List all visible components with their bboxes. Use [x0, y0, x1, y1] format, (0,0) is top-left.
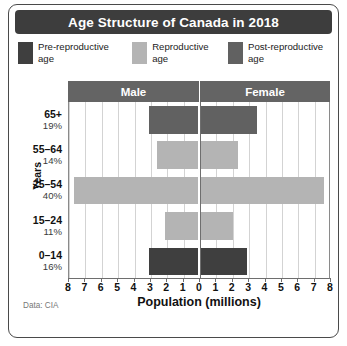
- bar-female: [200, 106, 257, 134]
- chart-title-bar: Age Structure of Canada in 2018: [15, 10, 332, 34]
- bar-male: [74, 177, 198, 205]
- x-axis-tick-label: 7: [311, 281, 317, 293]
- legend-item-0: Pre-reproductive age: [18, 41, 126, 64]
- legend-swatch-reproductive: [132, 42, 147, 64]
- bar-female: [200, 212, 233, 240]
- bar-rows: [69, 102, 329, 278]
- age-group-percent: 11%: [44, 226, 63, 238]
- bar-male: [149, 106, 198, 134]
- page-title: Age Structure of Canada in 2018: [68, 15, 279, 30]
- sex-header-female: Female: [199, 81, 330, 102]
- x-axis-tick-label: 6: [98, 281, 104, 293]
- sex-header: Male Female: [68, 81, 330, 102]
- age-group-percent: 14%: [43, 155, 62, 167]
- x-axis-tick-label: 7: [81, 281, 87, 293]
- bar-row: [69, 137, 329, 172]
- age-group-name: 55–64: [33, 143, 62, 155]
- legend-label-2: Post-reproductive age: [248, 41, 338, 64]
- chart-card: Age Structure of Canada in 2018 Pre-repr…: [8, 4, 339, 338]
- age-group-percent: 40%: [43, 190, 62, 202]
- x-axis-tick-label: 8: [65, 281, 71, 293]
- plot-area: [68, 102, 330, 279]
- bar-male: [157, 141, 198, 169]
- age-group-name: 65+: [44, 108, 62, 120]
- chart-legend: Pre-reproductive ageReproductive agePost…: [18, 41, 338, 75]
- bar-female: [200, 248, 247, 276]
- x-axis-title: Population (millions): [68, 295, 330, 309]
- x-axis-tick-label: 3: [147, 281, 153, 293]
- x-axis-tick-label: 0: [196, 281, 202, 293]
- legend-item-1: Reproductive age: [132, 41, 222, 64]
- bar-row: [69, 102, 329, 137]
- y-axis-group-label: 15–2411%: [33, 208, 62, 243]
- x-axis-tick-label: 3: [245, 281, 251, 293]
- y-axis-title: Years: [31, 162, 43, 190]
- age-group-name: 15–24: [33, 214, 62, 226]
- age-group-name: 0–14: [39, 249, 62, 261]
- x-axis-tick-label: 5: [114, 281, 120, 293]
- y-axis-labels: 65+19%55–6414%25–5440%15–2411%0–1416%: [9, 102, 66, 279]
- bar-row: [69, 244, 329, 279]
- x-axis-tick-label: 4: [131, 281, 137, 293]
- x-axis-tick-label: 2: [229, 281, 235, 293]
- bar-male: [149, 248, 198, 276]
- x-axis-tick-label: 5: [278, 281, 284, 293]
- bar-female: [200, 177, 324, 205]
- age-group-percent: 19%: [43, 120, 62, 132]
- bar-female: [200, 141, 238, 169]
- sex-header-male: Male: [68, 81, 199, 102]
- legend-label-1: Reproductive age: [152, 41, 222, 64]
- legend-item-2: Post-reproductive age: [228, 41, 338, 64]
- age-group-percent: 16%: [43, 261, 62, 273]
- x-axis-tick-label: 6: [294, 281, 300, 293]
- bar-row: [69, 208, 329, 243]
- legend-swatch-post-reproductive: [228, 42, 243, 64]
- x-axis-tick-label: 4: [262, 281, 268, 293]
- bar-male: [165, 212, 198, 240]
- legend-label-0: Pre-reproductive age: [38, 41, 126, 64]
- x-axis-tick-label: 2: [163, 281, 169, 293]
- plot-frame: Male Female: [68, 81, 330, 279]
- x-axis-tick-label: 1: [212, 281, 218, 293]
- x-axis-tick-label: 8: [327, 281, 333, 293]
- source-note: Data: CIA: [23, 301, 59, 310]
- y-axis-group-label: 65+19%: [43, 102, 62, 137]
- x-axis-tick-labels: 87654321012345678: [68, 281, 330, 295]
- y-axis-group-label: 0–1416%: [39, 244, 62, 279]
- x-axis-tick-label: 1: [180, 281, 186, 293]
- legend-swatch-pre-reproductive: [18, 42, 33, 64]
- bar-row: [69, 173, 329, 208]
